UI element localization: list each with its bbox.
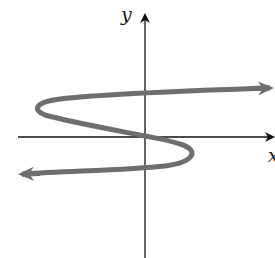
curve-arrow-left — [22, 174, 40, 175]
s-curve — [24, 88, 268, 174]
x-axis-label: x — [268, 146, 275, 165]
y-axis-label: y — [121, 5, 132, 24]
graph-plot — [0, 0, 275, 258]
curve-arrow-right — [250, 88, 270, 89]
